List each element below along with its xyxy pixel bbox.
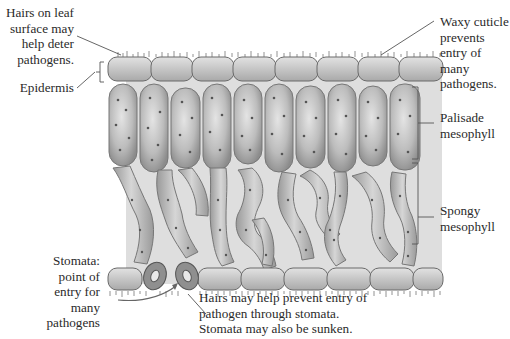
leaf-cross-section-diagram: Hairs on leaf surface may help deter pat…: [0, 0, 510, 339]
label-waxy-cuticle: Waxy cuticle prevents entry of many path…: [440, 14, 510, 92]
label-epidermis: Epidermis: [2, 80, 74, 96]
label-hairs-stomata: Hairs may help prevent entry of pathogen…: [199, 290, 439, 337]
label-hairs-on-leaf-surface: Hairs on leaf surface may help deter pat…: [2, 5, 74, 67]
label-spongy-mesophyll: Spongy mesophyll: [440, 203, 510, 234]
arrow-head-icon: [172, 283, 178, 290]
leader-epidermis: [77, 72, 95, 88]
leader-hairs-surface: [77, 36, 121, 55]
epidermis-bracket: [96, 62, 104, 82]
leader-waxy-cuticle: [381, 21, 434, 55]
upper-leaf-hairs: [118, 51, 440, 57]
label-stomata: Stomata: point of entry for many pathoge…: [2, 253, 100, 331]
label-palisade-mesophyll: Palisade mesophyll: [440, 110, 510, 141]
